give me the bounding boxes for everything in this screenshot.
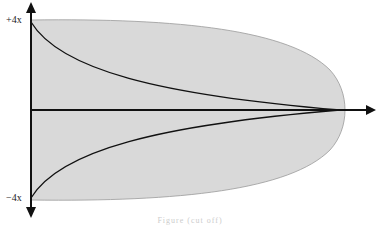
- bottom-axis-label: −4x: [6, 192, 22, 203]
- top-axis-label: +4x: [6, 14, 22, 25]
- envelope-diagram: [0, 0, 380, 226]
- y-axis-up-arrow-icon: [26, 2, 36, 13]
- x-axis-arrow-icon: [366, 105, 376, 115]
- figure-caption: Figure (cut off): [0, 216, 380, 225]
